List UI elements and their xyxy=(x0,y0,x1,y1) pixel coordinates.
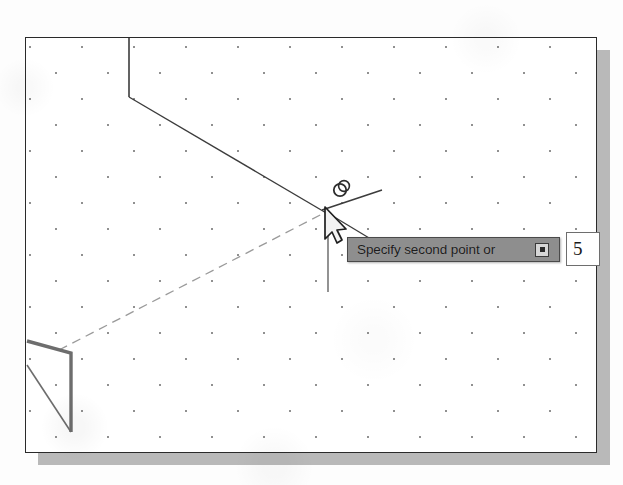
dynamic-input-prompt: Specify second point or xyxy=(348,242,535,257)
rubber-band-line xyxy=(322,190,382,210)
polar-tracking-line xyxy=(59,212,326,350)
expand-glyph xyxy=(540,247,545,252)
lower-left-panel xyxy=(27,341,71,432)
dynamic-input-tooltip[interactable]: Specify second point or xyxy=(347,237,560,262)
expand-options-icon[interactable] xyxy=(535,243,549,257)
diagonal-roof-line xyxy=(129,97,328,214)
lower-left-panel-lower xyxy=(27,365,71,432)
distance-input-value: 5 xyxy=(567,238,583,260)
distance-input[interactable]: 5 xyxy=(566,232,600,266)
